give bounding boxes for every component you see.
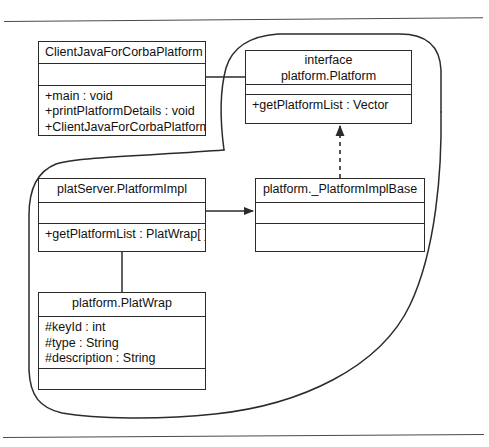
class-name-impl: platServer.PlatformImpl — [39, 179, 205, 203]
operation-item: +getPlatformList : Vector — [252, 98, 405, 114]
interface-name-label: platform.Platform — [252, 68, 405, 84]
operation-item: +main : void — [45, 89, 199, 105]
operations-compartment-implbase — [256, 224, 424, 245]
attributes-compartment-client — [39, 64, 205, 86]
class-box-platform-interface[interactable]: interface platform.Platform +getPlatform… — [245, 50, 412, 124]
operations-compartment-interface: +getPlatformList : Vector — [246, 95, 411, 117]
operations-compartment-client: +main : void +printPlatformDetails : voi… — [39, 86, 205, 135]
operations-compartment-platwrap — [39, 369, 205, 389]
class-name-platwrap: platform.PlatWrap — [39, 293, 205, 317]
class-box-plat-server-platform-impl[interactable]: platServer.PlatformImpl +getPlatformList… — [38, 178, 206, 252]
attribute-item: #keyId : int — [45, 320, 199, 336]
operations-compartment-impl: +getPlatformList : PlatWrap[ ] — [39, 224, 205, 246]
operation-item: +ClientJavaForCorbaPlatform : — [45, 120, 199, 135]
class-box-client-java-for-corba-platform[interactable]: ClientJavaForCorbaPlatform +main : void … — [38, 41, 206, 136]
attribute-item: #type : String — [45, 336, 199, 352]
bottom-rule — [3, 434, 484, 438]
attributes-compartment-interface — [246, 85, 411, 95]
class-box-platform-impl-base[interactable]: platform._PlatformImplBase — [255, 178, 425, 252]
attributes-compartment-implbase — [256, 203, 424, 224]
operation-item: +getPlatformList : PlatWrap[ ] — [45, 227, 199, 243]
class-box-platform-plat-wrap[interactable]: platform.PlatWrap #keyId : int #type : S… — [38, 292, 206, 390]
stereotype-label: interface — [252, 52, 405, 68]
operation-item: +printPlatformDetails : void — [45, 104, 199, 120]
attribute-item: #description : String — [45, 351, 199, 367]
class-name-interface: interface platform.Platform — [246, 51, 411, 85]
class-name-implbase: platform._PlatformImplBase — [256, 179, 424, 203]
diagram-canvas: ClientJavaForCorbaPlatform +main : void … — [0, 0, 489, 447]
attributes-compartment-platwrap: #keyId : int #type : String #description… — [39, 317, 205, 369]
attributes-compartment-impl — [39, 203, 205, 224]
top-rule — [4, 17, 483, 22]
class-name-client: ClientJavaForCorbaPlatform — [39, 42, 205, 64]
